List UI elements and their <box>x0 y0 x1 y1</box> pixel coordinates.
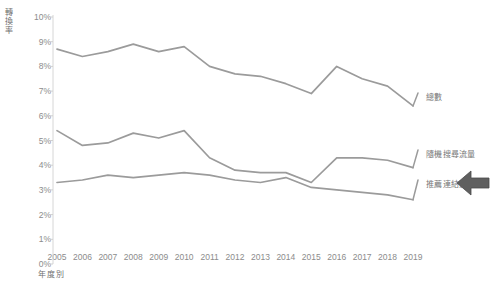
series-lines <box>57 44 413 200</box>
series-leader-line <box>413 180 418 200</box>
series-leader-line <box>413 93 418 106</box>
series-leader-lines <box>413 93 418 200</box>
series-label-1: 總數 <box>426 93 443 103</box>
line-chart: 轉換率 年度別 0%1%2%3%4%5%6%7%8%9%10% 20052006… <box>0 0 500 292</box>
axis-lines <box>50 15 53 264</box>
plot-area <box>0 0 500 292</box>
series-leader-line <box>413 150 418 168</box>
series-label-2: 隨機搜尋流量 <box>426 150 476 160</box>
left-arrow-cursor-icon <box>455 168 495 198</box>
series-line <box>57 44 413 106</box>
series-line <box>57 173 413 200</box>
